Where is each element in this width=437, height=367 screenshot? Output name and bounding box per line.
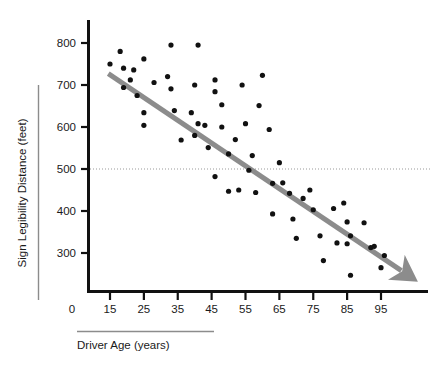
data-point: [141, 56, 146, 61]
x-tick-label: 15: [104, 303, 117, 315]
chart-canvas: 300400500600700800 152535455565758595 0 …: [0, 0, 437, 367]
y-tick-label: 700: [57, 79, 76, 91]
y-tick-label: 800: [57, 37, 76, 49]
x-tick-label: 35: [171, 303, 184, 315]
data-point: [121, 66, 126, 71]
data-point: [212, 174, 217, 179]
data-point: [195, 43, 200, 48]
data-point: [189, 110, 194, 115]
data-point: [151, 80, 156, 85]
data-point: [345, 219, 350, 224]
data-point: [226, 189, 231, 194]
data-point: [212, 77, 217, 82]
data-point: [121, 85, 126, 90]
data-point: [270, 181, 275, 186]
data-point: [260, 73, 265, 78]
y-tick-label: 300: [57, 247, 76, 259]
data-point: [240, 82, 245, 87]
data-point: [378, 265, 383, 270]
origin-label: 0: [69, 303, 75, 315]
data-point: [233, 137, 238, 142]
data-point: [307, 187, 312, 192]
data-point: [226, 151, 231, 156]
data-point: [168, 43, 173, 48]
data-point: [192, 133, 197, 138]
data-point: [290, 216, 295, 221]
data-point: [168, 86, 173, 91]
data-point: [277, 160, 282, 165]
data-point: [131, 67, 136, 72]
data-point: [202, 123, 207, 128]
x-tick-label: 75: [307, 303, 320, 315]
data-point: [192, 82, 197, 87]
data-point: [372, 244, 377, 249]
data-point: [250, 153, 255, 158]
data-point: [334, 240, 339, 245]
data-point: [348, 273, 353, 278]
x-tick-label: 85: [341, 303, 354, 315]
y-tick-label: 500: [57, 163, 76, 175]
y-axis-title: Sign Legibility Distance (feet): [16, 118, 28, 267]
x-tick-label: 45: [205, 303, 218, 315]
data-point: [287, 191, 292, 196]
data-point: [280, 180, 285, 185]
data-point: [270, 211, 275, 216]
data-point: [321, 258, 326, 263]
data-point: [212, 89, 217, 94]
scatter-plot-figure: 300400500600700800 152535455565758595 0 …: [0, 0, 437, 367]
data-point: [236, 187, 241, 192]
data-point: [246, 168, 251, 173]
data-point: [253, 190, 258, 195]
data-point: [135, 93, 140, 98]
data-point: [243, 121, 248, 126]
data-point: [219, 102, 224, 107]
data-point: [118, 49, 123, 54]
data-point: [311, 207, 316, 212]
chart-background: [0, 0, 437, 367]
x-tick-label: 25: [137, 303, 150, 315]
data-point: [128, 77, 133, 82]
x-tick-label: 65: [273, 303, 286, 315]
data-point: [165, 74, 170, 79]
data-point: [345, 241, 350, 246]
data-point: [141, 123, 146, 128]
data-point: [195, 121, 200, 126]
data-point: [256, 103, 261, 108]
data-point: [300, 196, 305, 201]
x-axis-title: Driver Age (years): [77, 339, 170, 351]
data-point: [348, 233, 353, 238]
data-point: [107, 61, 112, 66]
data-point: [267, 127, 272, 132]
y-tick-label: 600: [57, 121, 76, 133]
data-point: [361, 220, 366, 225]
y-tick-label: 400: [57, 205, 76, 217]
data-point: [219, 124, 224, 129]
data-point: [206, 145, 211, 150]
data-point: [172, 108, 177, 113]
x-tick-label: 95: [375, 303, 388, 315]
data-point: [382, 253, 387, 258]
data-point: [141, 110, 146, 115]
data-point: [179, 137, 184, 142]
data-point: [331, 206, 336, 211]
data-point: [294, 236, 299, 241]
data-point: [341, 200, 346, 205]
x-tick-label: 55: [239, 303, 252, 315]
data-point: [317, 233, 322, 238]
